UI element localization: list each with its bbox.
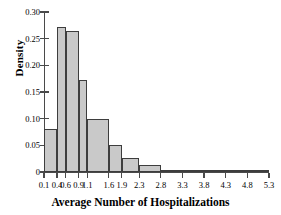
histogram-bar xyxy=(57,27,66,172)
x-tick-mark xyxy=(43,173,44,178)
x-tick-mark xyxy=(160,173,161,178)
x-tick-label: 4.3 xyxy=(220,180,231,190)
y-tick-label: 0.15 xyxy=(14,88,40,97)
histogram-bar xyxy=(79,80,88,172)
x-tick-mark xyxy=(247,173,248,178)
histogram-bar xyxy=(66,31,79,172)
x-tick-mark xyxy=(87,173,88,178)
histogram-bar xyxy=(182,170,204,172)
x-tick-mark xyxy=(268,173,269,178)
x-tick-label: 4.8 xyxy=(242,180,253,190)
x-tick-label: 2.3 xyxy=(134,180,145,190)
x-tick-label: 3.8 xyxy=(199,180,210,190)
x-tick-mark xyxy=(121,173,122,178)
x-tick-mark xyxy=(108,173,109,178)
y-tick-label: 0.25 xyxy=(14,35,40,44)
y-tick-mark xyxy=(40,118,49,119)
x-tick-label: 5.3 xyxy=(264,180,275,190)
histogram-bar xyxy=(122,158,139,172)
y-tick-label: 0.05 xyxy=(14,141,40,150)
y-tick-mark xyxy=(40,65,49,66)
x-tick-label: 1.9 xyxy=(117,180,128,190)
x-tick-mark xyxy=(203,173,204,178)
y-tick-mark xyxy=(40,11,49,12)
histogram-bar xyxy=(226,170,248,172)
histogram-bar xyxy=(109,145,122,172)
y-tick-mark xyxy=(40,38,49,39)
y-tick-label: 0 xyxy=(14,168,40,177)
histogram-bar xyxy=(204,170,226,172)
x-tick-mark xyxy=(56,173,57,178)
y-tick-label: 0.20 xyxy=(14,61,40,70)
x-tick-mark xyxy=(139,173,140,178)
y-tick-label: 0.30 xyxy=(14,8,40,17)
x-axis-title: Average Number of Hospitalizations xyxy=(0,196,281,208)
x-tick-label: 3.3 xyxy=(177,180,188,190)
y-tick-label: 0.10 xyxy=(14,115,40,124)
y-tick-mark xyxy=(40,91,49,92)
x-tick-label: 0.1 xyxy=(39,180,50,190)
histogram-bar xyxy=(247,170,269,172)
histogram-chart: Density 0.300.250.200.150.100.050 0.10.4… xyxy=(0,0,281,215)
x-tick-mark xyxy=(78,173,79,178)
histogram-bar xyxy=(161,170,183,172)
histogram-bar xyxy=(87,119,109,172)
x-tick-label: 1.1 xyxy=(82,180,93,190)
x-tick-label: 0.6 xyxy=(60,180,71,190)
x-tick-label: 1.6 xyxy=(104,180,115,190)
x-tick-mark xyxy=(225,173,226,178)
x-tick-mark xyxy=(65,173,66,178)
histogram-bar xyxy=(44,129,57,172)
y-axis-tick-labels: 0.300.250.200.150.100.050 xyxy=(14,0,40,215)
x-tick-label: 2.8 xyxy=(156,180,167,190)
plot-area: 0.10.40.60.91.11.61.92.32.83.33.84.34.85… xyxy=(44,12,269,172)
x-tick-mark xyxy=(182,173,183,178)
histogram-bar xyxy=(139,165,161,172)
